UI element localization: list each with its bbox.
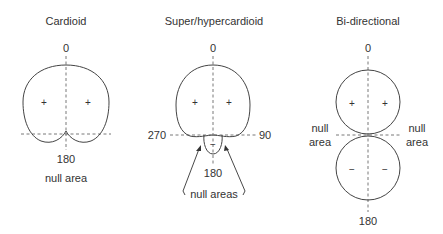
supercardioid-diagram: Super/hypercardioid 0 270 90 + + − 180 n… bbox=[148, 15, 272, 200]
cardioid-180-label: 180 bbox=[57, 153, 75, 165]
supercardioid-rear-lobe-sign: − bbox=[210, 139, 216, 150]
bidirectional-rear-sign-right: − bbox=[382, 164, 388, 175]
cardioid-diagram: Cardioid 0 + + 180 null area bbox=[21, 15, 111, 184]
polar-patterns-diagram: Cardioid 0 + + 180 null area Super/hyper… bbox=[0, 0, 443, 234]
cardioid-title: Cardioid bbox=[46, 15, 87, 27]
supercardioid-0-label: 0 bbox=[210, 42, 216, 54]
supercardioid-270-label: 270 bbox=[148, 129, 166, 141]
supercardioid-title: Super/hypercardioid bbox=[165, 15, 263, 27]
bidirectional-rear-sign-left: − bbox=[349, 164, 355, 175]
supercardioid-90-label: 90 bbox=[259, 129, 271, 141]
cardioid-lobe-sign-right: + bbox=[85, 97, 91, 108]
bidirectional-title: Bi-directional bbox=[336, 15, 400, 27]
supercardioid-180-label: 180 bbox=[204, 167, 222, 179]
supercardioid-lobe-sign-right: + bbox=[226, 97, 232, 108]
cardioid-null-area-label: null area bbox=[45, 172, 88, 184]
bidirectional-null-right-line1: null bbox=[408, 122, 425, 134]
cardioid-pattern-curve bbox=[23, 65, 109, 142]
supercardioid-null-areas-label: null areas bbox=[190, 188, 238, 200]
bidirectional-null-left-line1: null bbox=[311, 122, 328, 134]
bidirectional-front-sign-left: + bbox=[349, 98, 355, 109]
cardioid-lobe-sign-left: + bbox=[41, 97, 47, 108]
arrowhead-left-icon bbox=[196, 145, 201, 151]
bidirectional-180-label: 180 bbox=[359, 215, 377, 227]
supercardioid-lobe-sign-left: + bbox=[192, 97, 198, 108]
cardioid-0-label: 0 bbox=[63, 42, 69, 54]
bidirectional-null-left-line2: area bbox=[309, 136, 332, 148]
bidirectional-diagram: Bi-directional 0 + + − − null area null … bbox=[309, 15, 429, 227]
bidirectional-null-right-line2: area bbox=[406, 136, 429, 148]
bidirectional-0-label: 0 bbox=[365, 42, 371, 54]
arrowhead-right-icon bbox=[224, 145, 229, 151]
bidirectional-front-sign-right: + bbox=[382, 98, 388, 109]
